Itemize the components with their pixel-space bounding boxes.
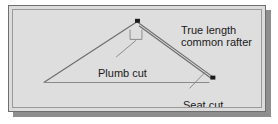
label-true-length-line2: common rafter xyxy=(181,36,252,48)
label-seat-cut: Seat cut xyxy=(183,99,223,108)
ridge-point-marker-icon xyxy=(135,19,140,23)
seat-cut-leader-line xyxy=(190,71,207,89)
figure-root: True length common rafter Plumb cut Seat… xyxy=(0,0,278,124)
figure-panel-inner-area: True length common rafter Plumb cut Seat… xyxy=(12,9,262,108)
label-true-length-line1: True length xyxy=(181,24,236,36)
eave-point-marker-icon xyxy=(210,76,215,80)
plumb-cut-leader-line xyxy=(116,40,136,57)
label-plumb-cut: Plumb cut xyxy=(98,67,147,79)
figure-panel-outer-frame: True length common rafter Plumb cut Seat… xyxy=(8,5,266,112)
plumb-cut-right-angle-marker xyxy=(130,30,142,40)
label-true-length-common-rafter: True length common rafter xyxy=(181,24,252,48)
